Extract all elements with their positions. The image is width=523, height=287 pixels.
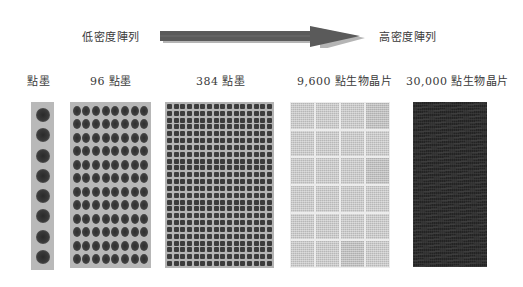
well <box>234 241 239 246</box>
well <box>187 234 192 239</box>
well <box>254 145 259 150</box>
well <box>167 261 172 266</box>
well <box>254 131 259 136</box>
well <box>167 220 172 225</box>
well <box>260 172 265 177</box>
well <box>260 159 265 164</box>
well <box>167 206 172 211</box>
well <box>220 124 225 129</box>
well <box>247 200 252 205</box>
well <box>92 119 100 129</box>
well <box>234 159 239 164</box>
well <box>214 241 219 246</box>
well <box>260 254 265 259</box>
well <box>194 124 199 129</box>
well <box>180 220 185 225</box>
well <box>174 261 179 266</box>
well <box>260 234 265 239</box>
well <box>267 172 272 177</box>
spot <box>36 250 50 264</box>
well <box>220 165 225 170</box>
well <box>207 118 212 123</box>
well <box>121 200 129 210</box>
well <box>187 131 192 136</box>
low-density-label: 低密度陣列 <box>82 28 140 44</box>
well <box>194 234 199 239</box>
well <box>260 138 265 143</box>
well <box>180 152 185 157</box>
well <box>247 213 252 218</box>
well <box>111 133 119 143</box>
well <box>131 254 139 264</box>
well <box>187 220 192 225</box>
well <box>247 172 252 177</box>
well <box>111 187 119 197</box>
well <box>247 247 252 252</box>
well <box>267 159 272 164</box>
well <box>167 138 172 143</box>
well <box>111 254 119 264</box>
spot-block <box>341 158 364 184</box>
well <box>247 186 252 191</box>
panel-label-96: 96 點墨 <box>90 72 132 88</box>
well <box>254 159 259 164</box>
well <box>207 206 212 211</box>
high-density-label: 高密度陣列 <box>379 28 437 44</box>
well <box>187 241 192 246</box>
well <box>267 179 272 184</box>
well <box>194 213 199 218</box>
spot-block <box>366 214 389 240</box>
well <box>234 152 239 157</box>
well <box>111 119 119 129</box>
well <box>167 247 172 252</box>
well <box>82 214 90 224</box>
well <box>240 165 245 170</box>
well <box>220 131 225 136</box>
well <box>227 234 232 239</box>
well <box>187 138 192 143</box>
well <box>227 200 232 205</box>
well <box>174 172 179 177</box>
well <box>260 118 265 123</box>
panel-label-30000: 30,000 點生物晶片 <box>406 72 509 88</box>
well <box>102 227 110 237</box>
well <box>220 254 225 259</box>
well <box>180 111 185 116</box>
well <box>187 193 192 198</box>
well <box>82 106 90 116</box>
spot-block <box>366 158 389 184</box>
well <box>240 138 245 143</box>
well <box>131 200 139 210</box>
well <box>111 160 119 170</box>
well <box>227 186 232 191</box>
well <box>214 254 219 259</box>
well <box>92 160 100 170</box>
well <box>167 124 172 129</box>
well <box>200 159 205 164</box>
well <box>92 106 100 116</box>
well <box>227 179 232 184</box>
well <box>220 200 225 205</box>
well <box>227 213 232 218</box>
well <box>220 227 225 232</box>
well <box>247 220 252 225</box>
well <box>227 206 232 211</box>
well <box>121 241 129 251</box>
well <box>207 213 212 218</box>
well <box>214 159 219 164</box>
well <box>207 234 212 239</box>
well <box>194 247 199 252</box>
spot-block <box>291 186 314 212</box>
well <box>167 118 172 123</box>
well <box>260 179 265 184</box>
well <box>200 165 205 170</box>
well <box>187 145 192 150</box>
well <box>234 124 239 129</box>
well <box>240 179 245 184</box>
well <box>267 220 272 225</box>
well <box>227 152 232 157</box>
well <box>187 261 192 266</box>
well <box>207 220 212 225</box>
well <box>73 254 81 264</box>
well <box>267 138 272 143</box>
